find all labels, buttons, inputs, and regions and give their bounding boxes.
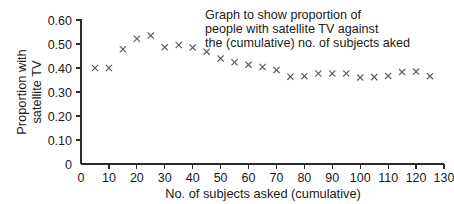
data-point — [148, 33, 154, 39]
y-tick-label: 0.50 — [48, 38, 72, 52]
data-point — [301, 73, 307, 79]
data-point — [329, 70, 335, 76]
x-tick-label: 100 — [350, 171, 371, 185]
data-point — [231, 59, 237, 65]
data-point — [287, 74, 293, 80]
x-tick-label: 70 — [270, 171, 284, 185]
data-point — [357, 75, 363, 81]
x-tick-label: 40 — [186, 171, 200, 185]
x-tick-label: 30 — [158, 171, 172, 185]
y-tick-label: 0 — [65, 158, 72, 172]
chart-title-line: Graph to show proportion of — [205, 8, 362, 22]
data-point — [427, 73, 433, 79]
x-tick-label: 50 — [214, 171, 228, 185]
data-point — [162, 44, 168, 50]
y-tick-label: 0.30 — [48, 86, 72, 100]
data-point — [176, 42, 182, 48]
x-tick-label: 90 — [325, 171, 339, 185]
chart-title-line: people with satellite TV against — [205, 22, 379, 36]
y-tick-label: 0.10 — [48, 134, 72, 148]
x-tick-label: 80 — [297, 171, 311, 185]
y-tick-label: 0.40 — [48, 62, 72, 76]
data-point — [371, 74, 377, 80]
data-point — [413, 69, 419, 75]
data-point — [315, 70, 321, 76]
data-point — [259, 64, 265, 70]
data-point — [385, 73, 391, 79]
data-point — [245, 62, 251, 68]
data-point — [190, 45, 196, 51]
scatter-chart-figure: 00.100.200.300.400.500.60 01020304050607… — [0, 0, 454, 204]
y-axis-title-line: Proportion with — [14, 49, 29, 134]
y-tick-label: 0.60 — [48, 14, 72, 28]
chart-canvas: 00.100.200.300.400.500.60 01020304050607… — [0, 0, 454, 204]
data-point — [106, 65, 112, 71]
x-tick-label: 10 — [102, 171, 116, 185]
x-axis-ticks: 0102030405060708090100110120130 — [78, 164, 454, 185]
data-point — [399, 69, 405, 75]
y-axis-title-line: satellite TV — [29, 60, 44, 124]
y-axis-ticks: 00.100.200.300.400.500.60 — [48, 14, 81, 172]
y-tick-label: 0.20 — [48, 110, 72, 124]
chart-title-line: the (cumulative) no. of subjects aked — [205, 36, 410, 50]
data-point — [218, 55, 224, 61]
x-tick-label: 0 — [78, 171, 85, 185]
x-tick-label: 120 — [406, 171, 427, 185]
x-tick-label: 60 — [242, 171, 256, 185]
chart-title: Graph to show proportion ofpeople with s… — [205, 8, 410, 50]
data-point — [134, 36, 140, 42]
x-tick-label: 130 — [434, 171, 454, 185]
data-point — [273, 67, 279, 73]
data-point — [120, 46, 126, 52]
x-axis-title-label: No. of subjects asked (cumulative) — [165, 186, 361, 201]
data-point — [92, 65, 98, 71]
data-point — [343, 70, 349, 76]
y-axis-title: Proportion withsatellite TV — [14, 49, 44, 134]
x-tick-label: 20 — [130, 171, 144, 185]
x-tick-label: 110 — [378, 171, 398, 185]
